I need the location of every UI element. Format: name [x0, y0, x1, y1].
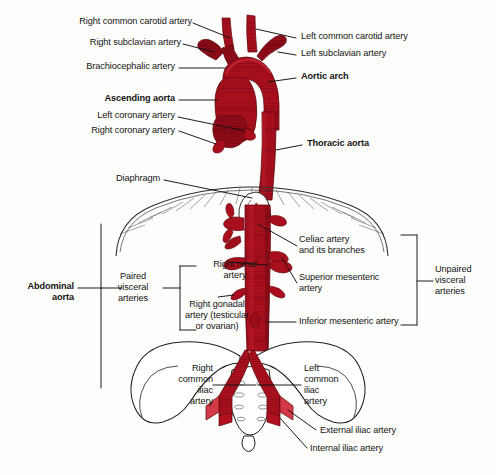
left-subclavian-vessel — [257, 35, 286, 61]
label-right-subclavian-artery: Right subclavian artery — [20, 37, 181, 48]
label-right-renal-artery: Right renal artery — [196, 259, 274, 281]
label-abdominal-aorta: Abdominal aorta — [2, 281, 74, 303]
label-inferior-mesenteric-artery: Inferior mesenteric artery — [299, 316, 449, 327]
leader-right-coronary — [179, 131, 216, 144]
leader-left-subclavian — [278, 52, 296, 55]
label-internal-iliac-artery: Internal iliac artery — [310, 443, 470, 454]
left-gonadal-vessel — [269, 286, 285, 298]
label-right-common-iliac-artery: Right common iliac artery — [151, 363, 213, 407]
label-right-common-carotid-artery: Right common carotid artery — [20, 16, 192, 27]
leader-diaphragm — [164, 180, 252, 198]
label-left-subclavian-artery: Left subclavian artery — [301, 48, 481, 59]
bracket-abdominal-aorta — [78, 224, 101, 388]
left-external-iliac-vessel — [280, 396, 293, 420]
label-right-coronary-artery: Right coronary artery — [20, 125, 175, 136]
left-common-carotid-vessel — [247, 15, 257, 52]
label-ascending-aorta: Ascending aorta — [20, 93, 175, 104]
leader-thoracic-aorta — [276, 145, 302, 150]
label-left-coronary-artery: Left coronary artery — [20, 110, 175, 121]
label-external-iliac-artery: External iliac artery — [320, 425, 480, 436]
leader-internal-iliac — [280, 418, 307, 448]
label-aortic-arch: Aortic arch — [301, 71, 481, 82]
right-coronary-vessel — [213, 140, 226, 153]
label-diaphragm: Diaphragm — [40, 173, 160, 184]
label-unpaired-visceral-arteries: Unpaired visceral arteries — [435, 264, 495, 297]
right-subclavian-vessel — [198, 39, 224, 60]
label-paired-visceral-arteries: Paired visceral arteries — [104, 271, 162, 304]
label-left-common-iliac-artery: Left common iliac artery — [304, 363, 366, 407]
label-left-common-carotid-artery: Left common carotid artery — [301, 31, 481, 42]
label-thoracic-aorta: Thoracic aorta — [307, 138, 487, 149]
leader-external-iliac — [288, 410, 316, 430]
diagram-canvas: Right common carotid artery Right subcla… — [0, 0, 496, 475]
label-brachiocephalic-artery: Brachiocephalic artery — [20, 61, 175, 72]
label-superior-mesenteric-artery: Superior mesenteric artery — [299, 272, 417, 294]
label-right-gonadal-artery: Right gonadal artery (testicular or ovar… — [158, 299, 276, 332]
label-celiac-artery: Celiac artery and its branches — [299, 234, 419, 256]
